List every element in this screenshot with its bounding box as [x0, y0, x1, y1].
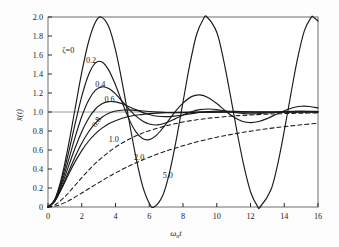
y-tick-label: 1.2	[33, 89, 43, 98]
y-tick-label: 0.6	[33, 146, 43, 155]
y-label-text: x̄(t)	[14, 109, 24, 122]
x-tick-label: 14	[280, 212, 288, 221]
x-tick-label: 6	[147, 212, 151, 221]
x-tick-label: 0	[46, 212, 50, 221]
x-label-time: t	[179, 228, 182, 238]
y-tick-label: 0.4	[33, 165, 43, 174]
curve-annotation-zeta10: 1.0	[109, 135, 119, 144]
y-axis-label: x̄(t)	[14, 109, 24, 122]
curve-annotation-zeta0: ζ=0	[62, 46, 74, 55]
x-tick-label: 10	[213, 212, 221, 221]
figure-container: 0246810121416 00.20.40.60.81.01.21.41.61…	[0, 0, 339, 247]
y-tick-label: 0	[39, 203, 43, 212]
x-axis-label: ωnt	[170, 228, 182, 239]
y-tick-label: 1.4	[33, 70, 43, 79]
x-tick-label: 12	[246, 212, 254, 221]
y-tick-label: 1.8	[33, 32, 43, 41]
y-tick-label: 1.6	[33, 51, 43, 60]
x-tick-label: 16	[314, 212, 322, 221]
y-tick-label: 0.2	[33, 184, 43, 193]
curve-annotation-zeta50: 5.0	[163, 171, 173, 180]
curve-annotation-zeta02: 0.2	[86, 56, 96, 65]
step-response-chart: 0246810121416 00.20.40.60.81.01.21.41.61…	[0, 0, 339, 247]
x-tick-label: 4	[113, 212, 117, 221]
y-tick-label: 1.0	[33, 108, 43, 117]
y-tick-label: 2.0	[33, 13, 43, 22]
curve-annotation-zeta20: 2.0	[134, 153, 144, 162]
x-tick-label: 2	[80, 212, 84, 221]
y-tick-label: 0.8	[33, 127, 43, 136]
x-tick-label: 8	[181, 212, 185, 221]
svg-text:ωnt: ωnt	[170, 228, 182, 239]
curve-annotation-zeta06: 0.6	[104, 95, 114, 104]
curve-annotation-zeta04: 0.4	[95, 80, 105, 89]
